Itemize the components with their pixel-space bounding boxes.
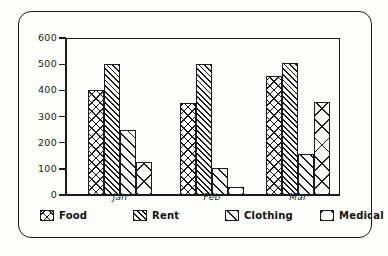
bar-feb-food — [180, 103, 196, 195]
bar-jan-clothing — [120, 130, 136, 195]
bar-mar-clothing — [298, 154, 314, 195]
y-axis-tick-label: 300 — [27, 111, 57, 122]
y-axis-tick — [59, 168, 66, 169]
bar-mar-food — [266, 76, 282, 195]
bar-feb-medical — [228, 187, 244, 195]
legend-item-clothing[interactable]: Clothing — [225, 207, 293, 223]
y-axis-tick — [59, 37, 66, 38]
legend-swatch-clothing-icon — [225, 210, 239, 221]
bar-feb-rent — [196, 64, 212, 195]
legend-swatch-medical-icon — [320, 210, 334, 221]
bar-jan-food — [88, 90, 104, 195]
x-axis-tick-label-jan: Jan — [104, 192, 136, 202]
legend-item-medical[interactable]: Medical — [320, 207, 384, 223]
y-axis-tick — [59, 116, 66, 117]
y-axis-tick-label: 0 — [27, 189, 57, 200]
legend-item-food[interactable]: Food — [40, 207, 87, 223]
y-axis-tick — [59, 142, 66, 143]
bar-mar-medical — [314, 102, 330, 195]
legend-swatch-rent-icon — [133, 210, 147, 221]
legend-label-rent: Rent — [152, 210, 179, 221]
legend-item-rent[interactable]: Rent — [133, 207, 179, 223]
legend-label-medical: Medical — [339, 210, 384, 221]
y-axis-tick — [59, 90, 66, 91]
bar-feb-clothing — [212, 168, 228, 195]
legend-label-clothing: Clothing — [244, 210, 293, 221]
y-axis-tick-label: 400 — [27, 84, 57, 95]
legend-label-food: Food — [59, 210, 87, 221]
legend-swatch-food-icon — [40, 210, 54, 221]
y-axis-tick-label: 200 — [27, 137, 57, 148]
x-axis-tick-label-mar: Mar — [282, 192, 314, 202]
y-axis-tick-label: 100 — [27, 163, 57, 174]
chart-screenshot: 6005004003002001000 JanFebMar FoodRentCl… — [0, 0, 388, 256]
chart-legend: FoodRentClothingMedical — [40, 207, 360, 225]
y-axis-tick — [59, 194, 66, 195]
bar-mar-rent — [282, 63, 298, 195]
x-axis-tick-label-feb: Feb — [196, 192, 228, 202]
bar-jan-medical — [136, 162, 152, 195]
y-axis-tick-label: 600 — [27, 32, 57, 43]
y-axis-tick — [59, 64, 66, 65]
bar-jan-rent — [104, 64, 120, 195]
y-axis-tick-label: 500 — [27, 58, 57, 69]
